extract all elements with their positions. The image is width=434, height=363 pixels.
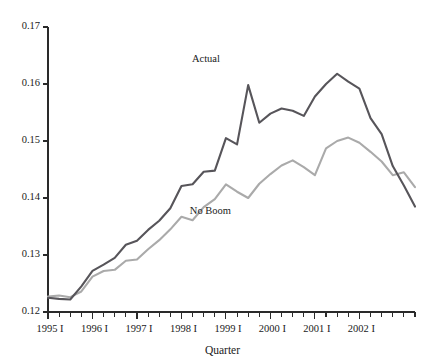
y-tick-label: 0.14 bbox=[22, 191, 41, 202]
x-tick-label: 1995 I bbox=[36, 323, 64, 334]
series-line-actual bbox=[48, 74, 415, 300]
x-tick-label: 2000 I bbox=[259, 323, 287, 334]
x-axis-group: 1995 I1996 I1997 I1998 I1999 I2000 I2001… bbox=[36, 312, 415, 334]
x-tick-marks bbox=[48, 312, 415, 319]
y-tick-label: 0.17 bbox=[22, 20, 40, 31]
x-tick-label: 2002 I bbox=[348, 323, 376, 334]
line-chart: 0.120.130.140.150.160.17 1995 I1996 I199… bbox=[0, 0, 434, 363]
series-group bbox=[48, 74, 415, 300]
x-tick-label: 1996 I bbox=[81, 323, 109, 334]
series-annotations: ActualNo Boom bbox=[190, 53, 231, 216]
series-label-no-boom: No Boom bbox=[190, 205, 231, 216]
x-tick-label: 1997 I bbox=[125, 323, 153, 334]
series-label-actual: Actual bbox=[192, 53, 220, 64]
chart-container: 0.120.130.140.150.160.17 1995 I1996 I199… bbox=[0, 0, 434, 363]
y-tick-label: 0.16 bbox=[22, 77, 40, 88]
y-tick-label: 0.15 bbox=[22, 134, 40, 145]
series-line-no-boom bbox=[48, 138, 415, 298]
x-axis-title: Quarter bbox=[205, 344, 240, 356]
y-tick-labels: 0.120.130.140.150.160.17 bbox=[22, 20, 41, 316]
y-tick-label: 0.13 bbox=[22, 248, 40, 259]
y-axis-group: 0.120.130.140.150.160.17 bbox=[22, 20, 48, 316]
y-tick-label: 0.12 bbox=[22, 305, 40, 316]
x-tick-label: 2001 I bbox=[303, 323, 331, 334]
x-tick-label: 1999 I bbox=[214, 323, 242, 334]
x-tick-labels: 1995 I1996 I1997 I1998 I1999 I2000 I2001… bbox=[36, 323, 375, 334]
y-tick-marks bbox=[43, 27, 48, 312]
x-tick-label: 1998 I bbox=[170, 323, 198, 334]
